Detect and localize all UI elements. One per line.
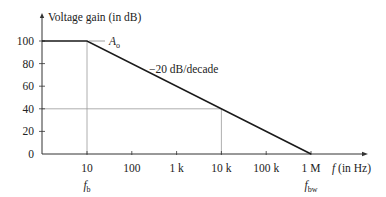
- y-tick-label: 0: [28, 148, 34, 160]
- guide-lines: [42, 41, 221, 154]
- axes: [40, 13, 368, 156]
- x-axis-label-unit: (in Hz): [335, 162, 371, 175]
- y-tick-label: 100: [17, 35, 35, 47]
- y-axis-label: Voltage gain (in dB): [48, 11, 142, 24]
- y-ticks: 020406080100: [17, 35, 45, 160]
- x-tick-label: 10 k: [211, 162, 231, 174]
- y-axis-arrow-icon: [40, 13, 44, 18]
- y-tick-label: 80: [23, 58, 35, 70]
- y-tick-label: 40: [23, 103, 35, 115]
- x-axis-arrow-icon: [362, 152, 368, 156]
- x-tick-label: 100: [123, 162, 141, 174]
- series: [42, 41, 311, 154]
- annotation-fb: fb: [83, 179, 90, 194]
- x-tick-label: 10: [81, 162, 93, 174]
- bode-plot: 020406080100 101001 k10 k100 k1 M Voltag…: [0, 0, 386, 197]
- annotation-slope: −20 dB/decade: [149, 63, 218, 75]
- annotation-ao: Ao: [108, 35, 120, 50]
- x-tick-label: 1 k: [169, 162, 184, 174]
- series-line: [42, 41, 311, 154]
- x-tick-label: 100 k: [253, 162, 279, 174]
- y-tick-label: 20: [23, 125, 35, 137]
- x-axis-label: f (in Hz): [332, 162, 371, 175]
- annotation-fbw: fbw: [305, 179, 318, 194]
- y-tick-label: 60: [23, 80, 35, 92]
- x-tick-label: 1 M: [302, 162, 321, 174]
